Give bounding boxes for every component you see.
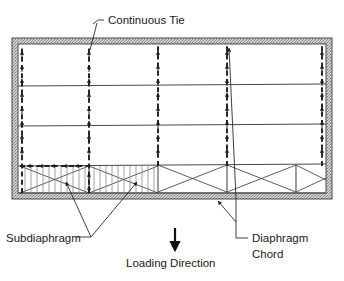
continuous-tie-label: Continuous Tie xyxy=(108,14,185,26)
figure-root: Continuous Tie Subdiaphragm Loading Dire… xyxy=(0,0,344,281)
diaphragm-chord-leader-bottom xyxy=(218,201,236,222)
shear-wall-perimeter xyxy=(12,38,332,199)
diaphragm-chord-leader-hook xyxy=(236,198,248,238)
diaphragm-chord-label-line2: Chord xyxy=(252,248,283,260)
diaphragm-diagram: Continuous Tie Subdiaphragm Loading Dire… xyxy=(0,0,344,281)
continuous-tie-leader-hook xyxy=(93,20,104,24)
subdiaphragm-label: Subdiaphragm xyxy=(6,232,81,244)
diaphragm-chord-label-line1: Diaphragm xyxy=(252,232,308,244)
loading-direction-label: Loading Direction xyxy=(126,257,216,269)
